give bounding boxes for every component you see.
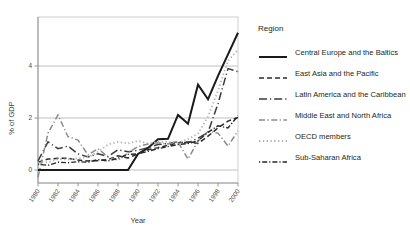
legend-item-label: OECD members — [295, 132, 351, 142]
x-tick-label: 1986 — [87, 187, 101, 203]
legend-line-swatch — [258, 153, 288, 163]
y-tick-label: 2 — [28, 114, 32, 121]
x-tick-label: 1984 — [67, 187, 81, 203]
series-line — [38, 116, 238, 165]
legend-item[interactable]: Sub-Saharan Africa — [258, 147, 408, 168]
legend-item[interactable]: East Asia and the Pacific — [258, 63, 408, 84]
legend-item-label: East Asia and the Pacific — [295, 69, 379, 79]
legend-title: Region — [258, 24, 408, 33]
x-tick-label: 1994 — [167, 187, 181, 203]
x-tick-label: 1980 — [27, 187, 41, 203]
series-line — [38, 50, 238, 163]
series-line — [38, 33, 238, 170]
x-tick-label: 1998 — [207, 187, 221, 203]
chart-page: 024 198019821984198619881990199219941996… — [0, 0, 410, 235]
legend-item[interactable]: Middle East and North Africa — [258, 105, 408, 126]
x-tick-label: 1996 — [187, 187, 201, 203]
legend-item-label: Sub-Saharan Africa — [295, 153, 361, 163]
line-chart-svg: 024 198019821984198619881990199219941996… — [0, 0, 250, 235]
y-tick-label: 4 — [28, 62, 32, 69]
x-tick-label: 1988 — [107, 187, 121, 203]
legend-item[interactable]: OECD members — [258, 126, 408, 147]
x-tick-label: 1982 — [47, 187, 61, 203]
legend-items: Central Europe and the BalticsEast Asia … — [258, 42, 408, 168]
legend-item-label: Latin America and the Caribbean — [295, 90, 406, 100]
legend-line-swatch — [258, 69, 288, 79]
legend-item[interactable]: Latin America and the Caribbean — [258, 84, 408, 105]
legend-item-label: Central Europe and the Baltics — [295, 48, 398, 58]
x-tick-label: 1992 — [147, 187, 161, 203]
y-tick-label: 0 — [28, 166, 32, 173]
y-axis-ticks: 024 — [28, 62, 38, 173]
x-axis-label: Year — [130, 216, 146, 225]
x-axis-ticks: 1980198219841986198819901992199419961998… — [27, 183, 241, 203]
legend-item-label: Middle East and North Africa — [295, 111, 391, 121]
series-line — [38, 115, 238, 177]
x-tick-label: 2000 — [227, 187, 241, 203]
legend-line-swatch — [258, 90, 288, 100]
chart-plot-area: 024 198019821984198619881990199219941996… — [0, 0, 250, 235]
y-axis-label: % of GDP — [7, 101, 16, 134]
legend-line-swatch — [258, 48, 288, 58]
chart-legend: Region Central Europe and the BalticsEas… — [258, 24, 408, 168]
x-tick-label: 1990 — [127, 187, 141, 203]
data-series — [38, 33, 238, 178]
legend-item[interactable]: Central Europe and the Baltics — [258, 42, 408, 63]
legend-line-swatch — [258, 111, 288, 121]
legend-line-swatch — [258, 132, 288, 142]
series-line — [38, 69, 238, 161]
